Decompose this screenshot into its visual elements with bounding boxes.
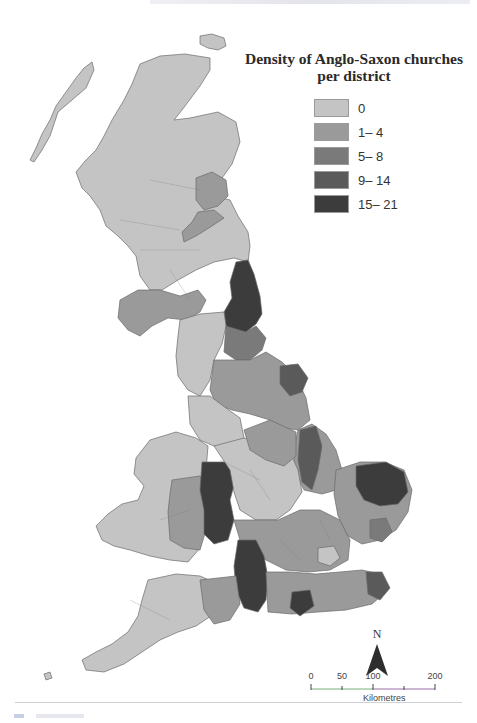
legend-title-line2: per district bbox=[234, 67, 474, 84]
legend-label: 9– 14 bbox=[358, 173, 391, 188]
scale-bar-line bbox=[305, 681, 445, 693]
legend-item: 15– 21 bbox=[314, 192, 474, 216]
region-scilly bbox=[44, 672, 52, 680]
legend-swatch bbox=[314, 195, 349, 213]
cropped-figure-caption bbox=[14, 714, 84, 718]
scale-tick-100: 100 bbox=[365, 671, 380, 681]
legend-swatch bbox=[314, 171, 349, 189]
legend-item: 5– 8 bbox=[314, 144, 474, 168]
map-legend: Density of Anglo-Saxon churches per dist… bbox=[234, 50, 474, 216]
legend-label: 15– 21 bbox=[358, 197, 398, 212]
legend-swatch bbox=[314, 123, 349, 141]
legend-title: Density of Anglo-Saxon churches per dist… bbox=[234, 50, 474, 84]
legend-item: 0 bbox=[314, 96, 474, 120]
legend-label: 5– 8 bbox=[358, 149, 383, 164]
page-divider bbox=[15, 702, 462, 703]
legend-item: 1– 4 bbox=[314, 120, 474, 144]
region-orkney bbox=[200, 34, 226, 50]
north-label: N bbox=[362, 627, 392, 642]
legend-swatch bbox=[314, 147, 349, 165]
scale-tick-0: 0 bbox=[308, 671, 313, 681]
legend-title-line1: Density of Anglo-Saxon churches bbox=[234, 50, 474, 67]
legend-item: 9– 14 bbox=[314, 168, 474, 192]
legend-label: 0 bbox=[358, 101, 365, 116]
legend-label: 1– 4 bbox=[358, 125, 383, 140]
region-northumberland bbox=[224, 260, 262, 332]
scale-tick-200: 200 bbox=[427, 671, 442, 681]
scale-bar: 0 50 100 200 Kilometres bbox=[305, 671, 445, 683]
region-outer-hebrides bbox=[30, 62, 94, 162]
region-scotland bbox=[76, 54, 250, 290]
scale-tick-50: 50 bbox=[337, 671, 347, 681]
legend-items: 0 1– 4 5– 8 9– 14 15– 21 bbox=[314, 96, 474, 216]
legend-swatch bbox=[314, 99, 349, 117]
